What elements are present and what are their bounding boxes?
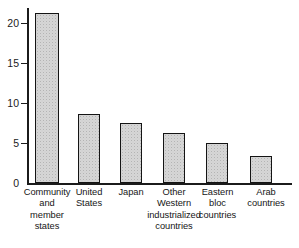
- bar-japan: [120, 123, 142, 183]
- x-category-label-line: States: [57, 198, 121, 209]
- bar-community-and-member-states: [35, 13, 59, 183]
- y-tick-label-5: 5: [0, 137, 19, 149]
- y-tick-15: [21, 63, 28, 64]
- x-axis-line: [27, 183, 292, 185]
- x-category-label-line: countries: [237, 198, 295, 209]
- plot-area: 20 15 10 5 0 Communityandmemberstates Un…: [0, 0, 299, 248]
- x-category-label-line: Eastern: [196, 187, 239, 198]
- x-category-label-line: member: [12, 210, 82, 221]
- y-tick-5: [21, 143, 28, 144]
- y-tick-label-20: 20: [0, 17, 19, 29]
- x-category-label-line: states: [12, 221, 82, 232]
- bar-eastern-bloc-countries: [206, 143, 228, 183]
- x-category-label-line: Arab: [237, 187, 295, 198]
- x-category-label-line: bloc: [196, 198, 239, 209]
- y-tick-10: [21, 103, 28, 104]
- x-category-label-line: countries: [139, 221, 209, 232]
- y-tick-label-15: 15: [0, 57, 19, 69]
- bar-other-western-industrialized-countries: [163, 133, 185, 183]
- bar-united-states: [78, 114, 100, 183]
- bar-arab-countries: [250, 156, 272, 183]
- x-category-label-5: Arabcountries: [237, 187, 295, 210]
- y-tick-label-10: 10: [0, 97, 19, 109]
- y-axis-line: [27, 8, 29, 184]
- bar-chart: 20 15 10 5 0 Communityandmemberstates Un…: [0, 0, 299, 248]
- y-tick-20: [21, 23, 28, 24]
- x-category-label-line: countries: [196, 210, 239, 221]
- x-category-label-4: Easternbloccountries: [196, 187, 239, 221]
